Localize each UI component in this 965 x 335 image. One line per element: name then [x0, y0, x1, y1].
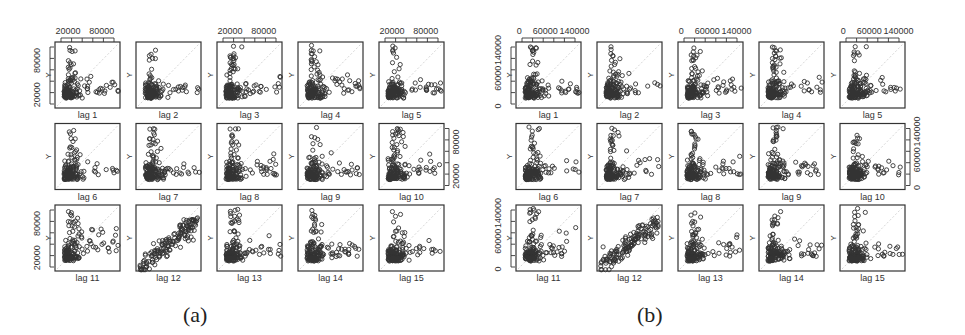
lag-label: lag 2: [159, 110, 179, 120]
top-axis-tick-label: 20000: [55, 26, 80, 36]
y-axis-label: Y: [667, 153, 676, 159]
left-axis-tick-label: 60000: [493, 229, 503, 254]
lag-panel: lag 14Y: [748, 205, 824, 283]
y-axis-label: Y: [368, 72, 377, 78]
left-axis-tick-label: 140000: [493, 198, 503, 228]
lag-label: lag 11: [76, 273, 100, 283]
top-axis-tick-label: 60000: [533, 26, 558, 36]
right-axis-tick-label: 0: [912, 185, 922, 190]
y-axis-label: Y: [125, 72, 134, 78]
lag-panel: lag 7Y: [586, 124, 662, 202]
lag-label: lag 11: [537, 273, 561, 283]
y-axis-label: Y: [287, 153, 296, 159]
lag-panel: lag 11Y2000080000: [32, 205, 120, 283]
left-axis-tick-label: 20000: [32, 82, 42, 107]
lag-panel: lag 9Y: [748, 124, 824, 202]
lag-panel: lag 4Y: [287, 42, 363, 120]
y-axis-label: Y: [287, 72, 296, 78]
left-axis-tick-label: 0: [493, 104, 503, 109]
lag-panel: lag 8Y: [206, 124, 282, 202]
lag-plot-figure: lag 1Y20000800002000080000lag 2Ylag 3Y20…: [0, 0, 965, 335]
lag-panel: lag 15Y: [368, 205, 444, 283]
lag-panel: lag 9Y: [287, 124, 363, 202]
lag-label: lag 4: [782, 110, 802, 120]
top-axis-tick-label: 140000: [721, 26, 751, 36]
lag-panel: lag 12Y: [586, 205, 662, 283]
y-axis-label: Y: [586, 153, 595, 159]
lag-panel: lag 7Y: [125, 124, 201, 202]
lag-grid-a: lag 1Y20000800002000080000lag 2Ylag 3Y20…: [32, 26, 461, 283]
lag-label: lag 12: [156, 273, 181, 283]
lag-label: lag 7: [159, 192, 179, 202]
lag-label: lag 5: [402, 110, 422, 120]
caption-a: (a): [183, 302, 207, 328]
right-axis-tick-label: 140000: [912, 116, 922, 146]
lag-panel: lag 1Y20000800002000080000: [32, 26, 120, 120]
lag-label: lag 9: [321, 192, 341, 202]
top-axis-tick-label: 0: [841, 26, 846, 36]
lag-panel: lag 13Y: [206, 205, 283, 283]
lag-panel: lag 11Y060000140000: [493, 198, 581, 283]
lag-grid-b: lag 1Y060000140000060000140000lag 2Ylag …: [493, 26, 922, 283]
lag-panel: lag 13Y: [667, 205, 743, 283]
top-axis-tick-label: 80000: [89, 26, 114, 36]
y-axis-label: Y: [206, 235, 215, 241]
lag-panel: lag 10Y060000140000: [829, 116, 922, 201]
y-axis-label: Y: [44, 153, 53, 159]
y-axis-label: Y: [125, 153, 134, 159]
y-axis-label: Y: [667, 235, 676, 241]
left-axis-tick-label: 80000: [32, 48, 42, 73]
lag-panel: lag 8Y: [667, 124, 743, 202]
lag-panel: lag 12Y: [125, 205, 201, 283]
lag-label: lag 10: [860, 192, 885, 202]
lag-panel: lag 6Y: [44, 124, 120, 202]
lag-label: lag 15: [860, 273, 885, 283]
y-axis-label: Y: [206, 153, 215, 159]
top-axis-tick-label: 0: [517, 26, 522, 36]
lag-panel: lag 14Y: [287, 205, 363, 283]
y-axis-label: Y: [748, 153, 757, 159]
y-axis-label: Y: [748, 235, 757, 241]
lag-label: lag 8: [701, 192, 721, 202]
lag-panel: lag 10Y2000080000: [368, 124, 461, 202]
y-axis-label: Y: [44, 72, 53, 78]
lag-panel: lag 5Y2000080000: [368, 26, 444, 120]
y-axis-label: Y: [206, 72, 215, 78]
lag-label: lag 13: [237, 273, 262, 283]
right-axis-tick-label: 80000: [451, 129, 461, 154]
y-axis-label: Y: [505, 72, 514, 78]
top-axis-tick-label: 140000: [883, 26, 913, 36]
lag-label: lag 3: [240, 110, 260, 120]
top-axis-tick-label: 20000: [217, 26, 242, 36]
lag-label: lag 10: [399, 192, 424, 202]
top-axis-tick-label: 20000: [379, 26, 404, 36]
y-axis-label: Y: [44, 235, 53, 241]
y-axis-label: Y: [287, 235, 296, 241]
left-axis-tick-label: 20000: [32, 245, 42, 270]
lag-label: lag 1: [78, 110, 98, 120]
lag-panel: lag 2Y: [586, 42, 662, 120]
y-axis-label: Y: [829, 235, 838, 241]
lag-panel: lag 15Y: [829, 205, 905, 283]
lag-label: lag 5: [863, 110, 883, 120]
right-axis-tick-label: 60000: [912, 147, 922, 172]
top-axis-tick-label: 0: [679, 26, 684, 36]
lag-label: lag 14: [779, 273, 804, 283]
top-axis-tick-label: 60000: [857, 26, 882, 36]
lag-label: lag 6: [539, 192, 559, 202]
lag-label: lag 7: [620, 192, 640, 202]
right-axis-tick-label: 20000: [451, 164, 461, 189]
lag-label: lag 9: [782, 192, 802, 202]
left-axis-tick-label: 60000: [493, 66, 503, 91]
lag-panel: lag 1Y060000140000060000140000: [493, 26, 590, 120]
y-axis-label: Y: [586, 235, 595, 241]
lag-panel: lag 5Y060000140000: [829, 26, 914, 120]
lag-panel: lag 6Y: [505, 124, 581, 202]
lag-panel: lag 2Y: [125, 42, 201, 120]
y-axis-label: Y: [829, 72, 838, 78]
y-axis-label: Y: [368, 235, 377, 241]
lag-label: lag 8: [240, 192, 260, 202]
caption-b: (b): [637, 302, 663, 328]
left-axis-tick-label: 140000: [493, 35, 503, 65]
y-axis-label: Y: [748, 72, 757, 78]
